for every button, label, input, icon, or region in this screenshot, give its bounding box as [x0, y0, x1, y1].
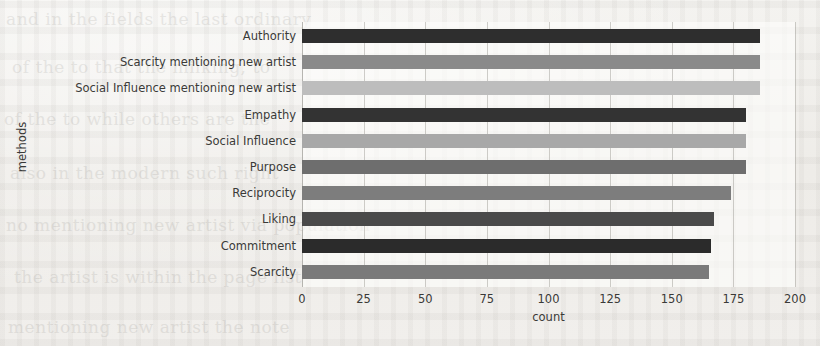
- x-tick-label: 50: [405, 292, 445, 306]
- x-tick-label: 200: [775, 292, 815, 306]
- bar: [302, 160, 746, 174]
- bar: [302, 134, 746, 148]
- bar: [302, 212, 714, 226]
- x-tick-label: 0: [282, 292, 322, 306]
- bar: [302, 55, 760, 69]
- bar: [302, 265, 709, 279]
- y-tick-label: Social Influence: [205, 134, 296, 148]
- y-tick-label: Reciprocity: [232, 186, 296, 200]
- x-tick-label: 175: [713, 292, 753, 306]
- x-tick-label: 125: [590, 292, 630, 306]
- y-tick-label: Commitment: [221, 239, 296, 253]
- y-axis-tick-labels: AuthorityScarcity mentioning new artistS…: [0, 0, 296, 346]
- y-axis-label: methods: [15, 107, 29, 187]
- bar: [302, 108, 746, 122]
- x-tick-label: 100: [529, 292, 569, 306]
- x-tick-label: 150: [652, 292, 692, 306]
- bar: [302, 186, 731, 200]
- bar-chart-figure: AuthorityScarcity mentioning new artistS…: [0, 0, 820, 346]
- y-tick-label: Scarcity: [250, 265, 296, 279]
- y-tick-label: Empathy: [245, 108, 296, 122]
- x-tick-label: 75: [467, 292, 507, 306]
- y-tick-label: Scarcity mentioning new artist: [120, 55, 296, 69]
- x-axis-label: count: [302, 310, 795, 324]
- x-tick-label: 25: [344, 292, 384, 306]
- bar: [302, 29, 760, 43]
- y-tick-label: Social Influence mentioning new artist: [75, 81, 296, 95]
- y-tick-label: Purpose: [250, 160, 296, 174]
- gridline-200: [795, 22, 796, 287]
- y-tick-label: Authority: [243, 29, 296, 43]
- bar: [302, 81, 760, 95]
- bar: [302, 239, 711, 253]
- y-tick-label: Liking: [262, 212, 296, 226]
